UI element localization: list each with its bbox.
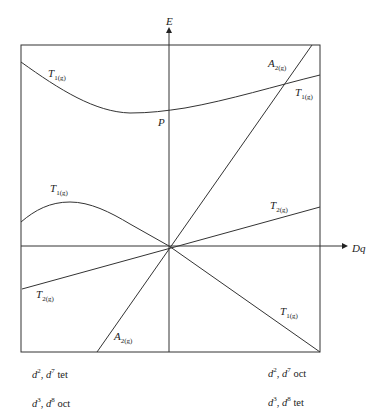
- label-t2g-right: T2(g): [270, 199, 288, 214]
- label-t1g-lower-curve: T1(g): [50, 182, 68, 197]
- caption-right-2: d3, d8 tet: [268, 395, 304, 408]
- label-t1g-lower-right: T1(g): [280, 305, 298, 320]
- orgel-diagram: E Dq T1(g) A2(g) T1(g) P T1(g) T2(g) T2(…: [0, 0, 384, 418]
- label-a2g-lower: A2(g): [113, 330, 133, 345]
- caption-left-1: d2, d7 tet: [32, 367, 68, 380]
- line-t1g-lower-curve: [21, 202, 169, 246]
- energy-axis-label: E: [165, 15, 173, 27]
- caption-right-1: d2, d7 oct: [268, 366, 306, 379]
- line-t1g-lower-right: [169, 246, 320, 352]
- caption-left-2: d3, d8 oct: [32, 396, 70, 409]
- label-t2g-left: T2(g): [36, 288, 54, 303]
- label-a2g-upper: A2(g): [267, 57, 287, 72]
- label-t1g-top-right: T1(g): [295, 86, 313, 101]
- point-p-label: P: [157, 116, 165, 128]
- label-t1g-top-curve: T1(g): [48, 67, 66, 82]
- dq-axis-label: Dq: [351, 242, 366, 254]
